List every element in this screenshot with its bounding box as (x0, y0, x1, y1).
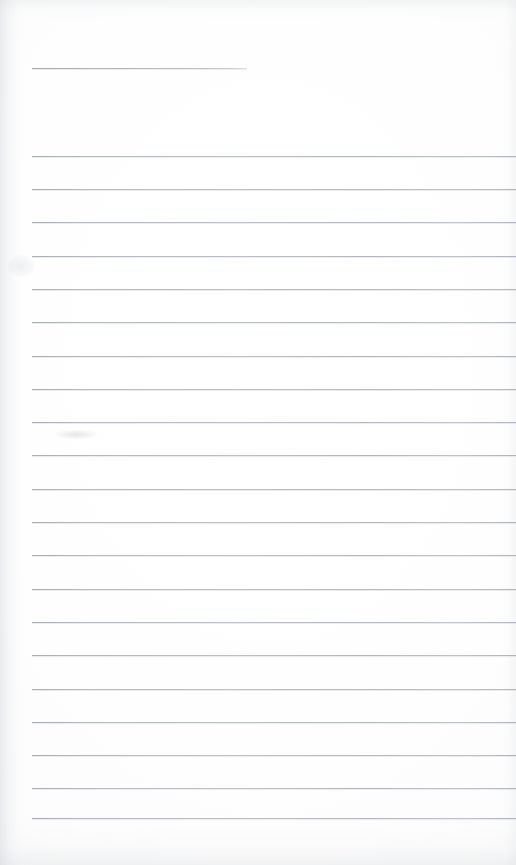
paper-background (0, 0, 516, 865)
notebook-page (0, 0, 516, 865)
